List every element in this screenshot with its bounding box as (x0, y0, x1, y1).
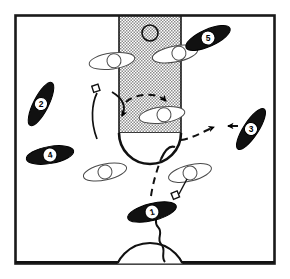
screen-flag-left-icon (92, 84, 100, 92)
player-number-5: 5 (206, 33, 211, 43)
player-number-2: 2 (39, 99, 44, 109)
basketball-court-svg: 1 2 3 (0, 0, 290, 279)
play-diagram-canvas: 1 2 3 (0, 0, 290, 279)
player-number-3: 3 (249, 124, 254, 134)
screen-flag-right-icon (171, 191, 179, 199)
